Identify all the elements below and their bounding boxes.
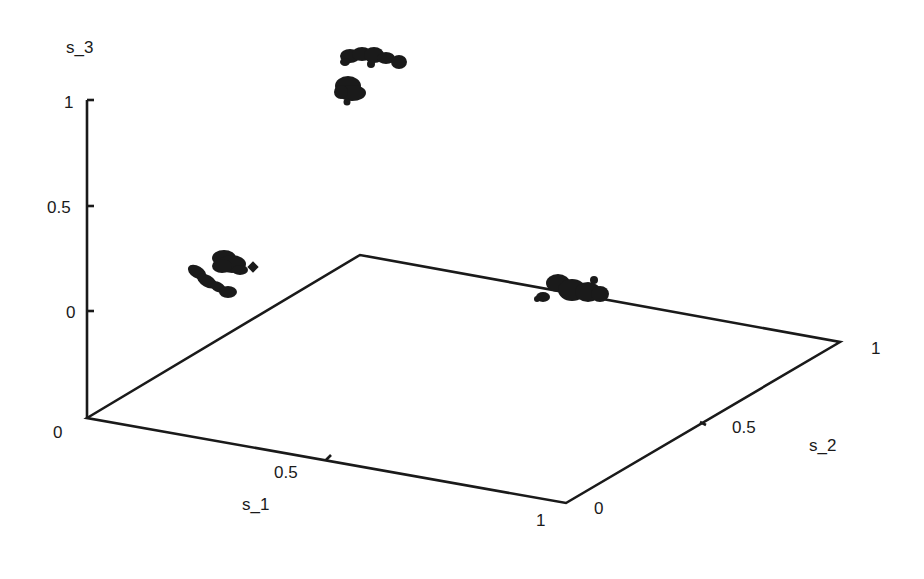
s1-tick-label-1: 1: [536, 512, 545, 529]
plot-area: [0, 0, 924, 579]
base-plane: [87, 255, 840, 503]
s2-tick-label-1: 1: [871, 340, 880, 357]
origin-label: 0: [53, 424, 62, 441]
s3-tick-label-05: 0.5: [47, 199, 71, 216]
cluster-top: [334, 47, 407, 106]
s1-tick-label-05: 0.5: [274, 464, 298, 481]
s3-tick-label-0: 0: [66, 304, 75, 321]
s3-axis-label: s_3: [66, 39, 93, 56]
s2-axis-label: s_2: [809, 437, 836, 454]
s2-tick-label-05: 0.5: [732, 419, 756, 436]
cluster-left: [185, 250, 258, 298]
s3-tick-label-1: 1: [64, 94, 73, 111]
s1-tick-05: [326, 455, 331, 460]
s2-tick-label-0: 0: [594, 500, 603, 517]
s1-axis-label: s_1: [242, 496, 269, 513]
data-points: [185, 47, 609, 302]
